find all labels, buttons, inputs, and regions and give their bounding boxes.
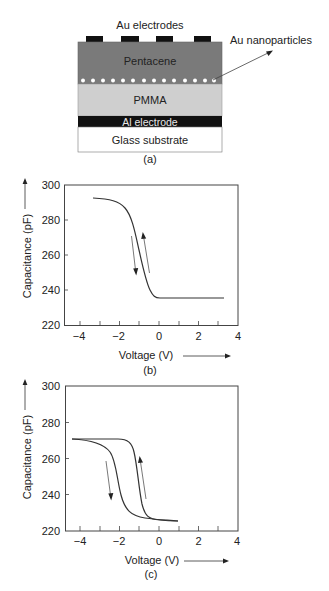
xtick-0: 0 [156, 330, 162, 342]
xtick-2: 2 [195, 535, 201, 547]
xtick-4: 4 [234, 535, 240, 547]
y-ticks-b [65, 220, 69, 290]
cv-curve-forward-c [72, 439, 178, 521]
x-ticks-b [80, 321, 218, 326]
sweep-up-arrow-icon-c [138, 456, 143, 463]
plot-frame-b [65, 185, 239, 326]
x-tick-labels-c: −4 −2 0 2 4 [74, 535, 240, 547]
device-schematic: Au electrodes Pentacene PMMA Al electrod… [78, 19, 312, 165]
au-electrodes-label: Au electrodes [116, 19, 184, 31]
y-axis-label-c: Capacitance (pF) [21, 415, 33, 499]
xtick-neg4: −4 [74, 535, 87, 547]
xtick-4: 4 [235, 330, 241, 342]
y-tick-labels-c: 300 280 260 240 220 [42, 380, 60, 537]
pmma-label: PMMA [134, 94, 168, 106]
sweep-down-arrow-icon-b [133, 268, 138, 276]
sweep-down-arrow-icon-c [108, 493, 113, 501]
x-axis-label-b: Voltage (V) [119, 349, 173, 361]
ytick-240: 240 [42, 284, 60, 296]
ytick-300: 300 [42, 179, 60, 191]
glass-substrate-label: Glass substrate [112, 134, 188, 146]
ytick-260: 260 [42, 249, 60, 261]
sweep-up-line-c [141, 462, 147, 499]
nanoparticle-pointer-arrowhead-icon [266, 51, 273, 57]
ytick-220: 220 [42, 525, 60, 537]
ytick-280: 280 [42, 214, 60, 226]
caption-b: (b) [143, 364, 156, 376]
y-axis-arrow-icon-c [23, 379, 28, 385]
al-electrode-label: Al electrode [122, 116, 178, 128]
au-nanoparticles-label: Au nanoparticles [230, 34, 312, 46]
xtick-neg4: −4 [73, 330, 86, 342]
x-axis-arrow-icon-c [223, 559, 229, 564]
ytick-280: 280 [42, 417, 60, 429]
chart-c: 300 280 260 240 220 −4 −2 0 2 4 Capacita… [21, 379, 240, 580]
ytick-240: 240 [42, 489, 60, 501]
y-axis-arrow-icon-b [23, 178, 28, 184]
ytick-220: 220 [42, 319, 60, 331]
cv-curve-b [93, 198, 224, 298]
x-axis-arrow-icon-b [225, 354, 231, 359]
plot-frame-c [66, 386, 239, 531]
ytick-260: 260 [42, 453, 60, 465]
cv-curve-reverse-c [72, 439, 178, 521]
ytick-300: 300 [42, 380, 60, 392]
x-ticks-c [80, 526, 218, 531]
xtick-2: 2 [195, 330, 201, 342]
caption-c: (c) [145, 568, 158, 580]
xtick-neg2: −2 [112, 330, 125, 342]
sweep-up-line-b [144, 238, 150, 273]
y-axis-label-b: Capacitance (pF) [21, 214, 33, 298]
x-axis-label-c: Voltage (V) [125, 554, 179, 566]
pentacene-label: Pentacene [124, 55, 177, 67]
chart-b: 300 280 260 240 220 −4 −2 0 2 4 Capacita… [21, 178, 241, 376]
y-tick-labels-b: 300 280 260 240 220 [42, 179, 60, 331]
y-ticks-c [66, 423, 70, 495]
x-tick-labels-b: −4 −2 0 2 4 [73, 330, 241, 342]
sweep-up-arrow-icon-b [141, 232, 146, 239]
caption-a: (a) [143, 153, 156, 165]
sweep-down-line-c [106, 461, 111, 495]
xtick-0: 0 [156, 535, 162, 547]
sweep-down-line-b [132, 236, 136, 270]
xtick-neg2: −2 [113, 535, 126, 547]
figure: Au electrodes Pentacene PMMA Al electrod… [0, 0, 329, 591]
